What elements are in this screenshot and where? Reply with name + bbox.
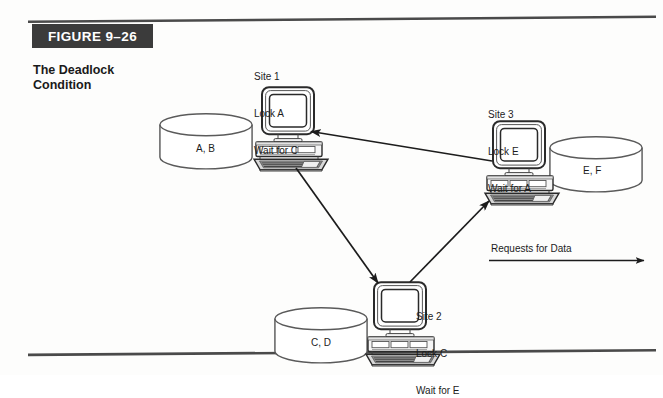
legend-label: Requests for Data: [491, 243, 572, 255]
figure-number-badge: FIGURE 9–26: [32, 24, 153, 48]
database-label-ab: A, B: [196, 143, 215, 154]
figure-number-label: FIGURE 9–26: [48, 29, 137, 44]
node-label-site3: Site 3 Lock E Wait for A: [488, 84, 531, 220]
site2-name: Site 2: [416, 311, 460, 323]
site3-lock: Lock E: [488, 146, 531, 158]
database-label-cd: C, D: [311, 337, 331, 348]
edge-site2-to-site3: [410, 201, 489, 282]
figure-caption-line-2: Condition: [33, 78, 183, 93]
figure-caption: The Deadlock Condition: [33, 63, 183, 93]
site1-name: Site 1: [254, 71, 298, 83]
edge-site1-to-site2: [296, 168, 378, 283]
site1-lock: Lock A: [254, 108, 298, 120]
site1-wait: Wait for C: [254, 145, 298, 157]
site2-wait: Wait for E: [416, 385, 460, 397]
database-label-ef: E, F: [583, 165, 601, 176]
figure-caption-line-1: The Deadlock: [33, 63, 183, 78]
database-cd: [275, 308, 367, 363]
edge-site3-to-site1: [311, 132, 492, 162]
site3-name: Site 3: [488, 109, 531, 121]
node-label-site2: Site 2 Lock C Wait for E: [416, 286, 460, 398]
site3-wait: Wait for A: [488, 183, 531, 195]
node-label-site1: Site 1 Lock A Wait for C: [254, 46, 298, 182]
database-ab: [160, 114, 252, 169]
site2-lock: Lock C: [416, 348, 460, 360]
